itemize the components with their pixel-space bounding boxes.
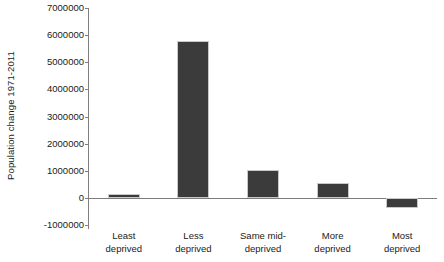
y-axis-tick-label: 2000000 (18, 139, 84, 149)
bar (317, 183, 349, 198)
y-axis-tick-mark (85, 225, 89, 226)
y-axis-tick-label: -1000000 (18, 220, 84, 230)
bar-chart: Population change 1971-2011 700000060000… (0, 0, 444, 262)
y-axis-tick-mark (85, 35, 89, 36)
y-axis-tick-label: 5000000 (18, 57, 84, 67)
y-axis-tick-label: 0 (18, 193, 84, 203)
y-axis-tick-mark (85, 89, 89, 90)
bar (108, 194, 140, 198)
y-axis-tick-label: 7000000 (18, 3, 84, 13)
y-axis-tick-labels: 7000000600000050000004000000300000020000… (18, 0, 84, 262)
y-axis-tick-mark (85, 198, 89, 199)
y-axis-tick-mark (85, 8, 89, 9)
bar (247, 170, 279, 199)
category-label-line-2: deprived (359, 242, 444, 255)
y-axis-tick-label: 1000000 (18, 166, 84, 176)
y-axis-tick-label: 4000000 (18, 84, 84, 94)
x-axis-category-label: Mostdeprived (359, 229, 444, 255)
y-axis-tick-mark (85, 171, 89, 172)
y-axis-tick-label: 3000000 (18, 112, 84, 122)
bar (386, 198, 418, 208)
y-axis-tick-label: 6000000 (18, 30, 84, 40)
category-label-line-1: Most (359, 229, 444, 242)
y-axis-tick-mark (85, 144, 89, 145)
x-axis-category-labels: LeastdeprivedLessdeprivedSame mid-depriv… (89, 229, 437, 262)
y-axis-title: Population change 1971-2011 (0, 0, 20, 230)
bar (177, 41, 209, 198)
y-axis-tick-mark (85, 117, 89, 118)
y-axis-title-text: Population change 1971-2011 (5, 51, 16, 180)
plot-area (89, 8, 437, 229)
y-axis-tick-mark (85, 62, 89, 63)
